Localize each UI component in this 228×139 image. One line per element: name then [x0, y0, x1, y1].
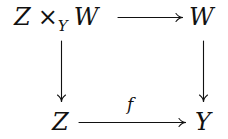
- arrow-left: [58, 41, 66, 102]
- arrow-right: [200, 41, 208, 102]
- arrows-layer: [0, 0, 228, 139]
- arrow-top: [118, 14, 183, 22]
- arrow-bottom-f: [79, 119, 186, 127]
